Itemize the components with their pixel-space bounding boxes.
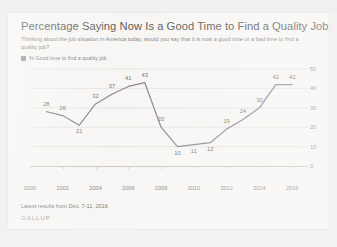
legend-swatch-icon: [21, 56, 26, 61]
x-axis-tick-label: 2006: [122, 185, 134, 191]
data-point-label: 19: [223, 118, 229, 124]
x-axis-tick-label: 2014: [253, 185, 265, 191]
x-axis-tick: [194, 166, 195, 169]
x-axis-tick: [292, 166, 293, 169]
data-point-label: 26: [60, 105, 66, 111]
y-axis-tick-label: 10: [310, 144, 316, 150]
data-point-label: 42: [273, 74, 279, 80]
scan-ghost-text: [18, 0, 20, 6]
line-chart-svg: [30, 69, 302, 166]
scan-top-artifact: [0, 0, 337, 13]
x-axis-tick: [128, 166, 129, 169]
data-point-label: 12: [207, 146, 213, 152]
data-point-label: 43: [141, 72, 147, 78]
x-axis-tick-label: 2004: [89, 185, 101, 191]
brand-label: GALLUP: [21, 214, 51, 221]
x-axis-tick-label: 2008: [155, 185, 167, 191]
y-axis-tick-label: 0: [310, 163, 313, 169]
grid-group: [30, 69, 308, 147]
page-title: Percentage Saying Now Is a Good Time to …: [21, 20, 329, 32]
x-axis-line: [30, 166, 308, 167]
series-line: [46, 83, 292, 147]
data-point-label: 42: [289, 74, 295, 80]
x-axis-tick-label: 2002: [57, 185, 69, 191]
y-axis-labels: 01020304050: [310, 63, 329, 173]
x-axis-tick-label: 2012: [220, 185, 232, 191]
data-point-label: 24: [240, 108, 246, 114]
y-axis-tick-label: 30: [310, 105, 316, 111]
data-point-label: 37: [109, 83, 115, 89]
data-point-label: 11: [191, 148, 197, 154]
x-axis-tick: [227, 166, 228, 169]
chart-legend: % Good time to find a quality job: [21, 55, 107, 61]
chart-card: Percentage Saying Now Is a Good Time to …: [8, 13, 329, 229]
data-point-label: 21: [76, 128, 82, 134]
data-point-label: 28: [43, 101, 49, 107]
x-axis-tick: [259, 166, 260, 169]
footnote: Latest results from Dec. 7-11, 2016: [21, 203, 108, 209]
x-axis-tick: [63, 166, 64, 169]
x-axis-tick-label: 2010: [188, 185, 200, 191]
data-point-label: 32: [92, 93, 98, 99]
data-point-label: 41: [125, 75, 131, 81]
x-axis-labels: 200020022004200620082010201220142016: [26, 185, 316, 197]
chart-plot-area: 28262132374143201011121924304242: [30, 69, 302, 166]
x-axis-tick-label: 2000: [24, 185, 36, 191]
legend-label: % Good time to find a quality job: [29, 55, 107, 61]
y-axis-tick-label: 40: [310, 85, 316, 91]
data-point-label: 20: [158, 116, 164, 122]
y-axis-tick-label: 20: [310, 124, 316, 130]
x-axis-tick-label: 2016: [286, 185, 298, 191]
x-axis-tick: [30, 166, 31, 169]
chart-subtitle: Thinking about the job situation in Amer…: [21, 36, 309, 51]
x-axis-tick: [96, 166, 97, 169]
x-axis-tick: [161, 166, 162, 169]
data-point-label: 30: [256, 97, 262, 103]
data-point-label: 10: [174, 150, 180, 156]
y-axis-tick-label: 50: [310, 66, 316, 72]
